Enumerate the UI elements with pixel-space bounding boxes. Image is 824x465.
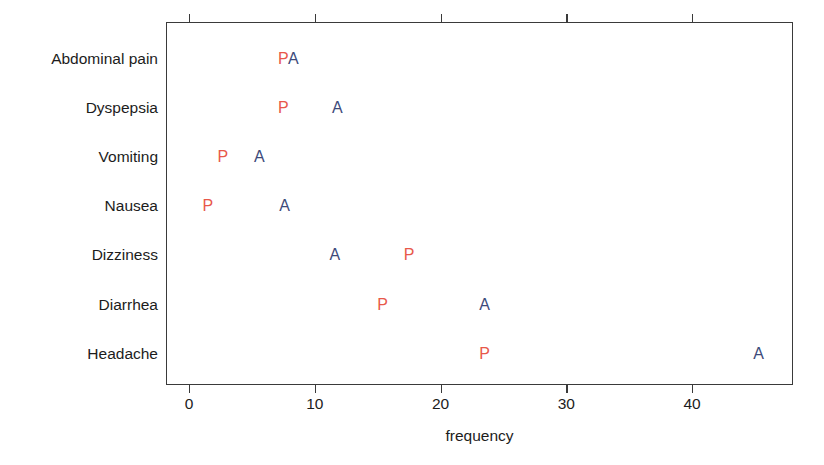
- data-point-p: P: [404, 247, 415, 263]
- plot-frame: [166, 22, 793, 385]
- data-point-a: A: [254, 149, 265, 165]
- data-point-a: A: [330, 247, 341, 263]
- x-tick-label: 20: [432, 396, 449, 412]
- dotplot-figure: Abdominal painDyspepsiaVomitingNauseaDiz…: [0, 0, 824, 465]
- y-axis-category-labels: Abdominal painDyspepsiaVomitingNauseaDiz…: [0, 0, 158, 465]
- x-tick-mark-bottom: [189, 385, 190, 393]
- data-point-a: A: [753, 346, 764, 362]
- data-point-a: A: [479, 297, 490, 313]
- x-tick-mark-bottom: [315, 385, 316, 393]
- data-point-p: P: [203, 198, 214, 214]
- y-axis-label: Vomiting: [0, 149, 166, 165]
- y-axis-label: Dizziness: [0, 247, 166, 263]
- x-tick-mark-bottom: [441, 385, 442, 393]
- x-tick-label: 0: [185, 396, 194, 412]
- x-tick-label: 40: [683, 396, 700, 412]
- x-tick-mark-bottom: [692, 385, 693, 393]
- data-point-a: A: [279, 198, 290, 214]
- data-point-p: P: [218, 149, 229, 165]
- data-point-a: A: [288, 51, 299, 67]
- x-tick-label: 10: [306, 396, 323, 412]
- y-axis-label: Abdominal pain: [0, 51, 166, 67]
- x-tick-mark-bottom: [566, 385, 567, 393]
- y-axis-label: Diarrhea: [0, 297, 166, 313]
- x-tick-mark-top: [566, 14, 567, 22]
- x-tick-mark-top: [692, 14, 693, 22]
- y-axis-label: Dyspepsia: [0, 100, 166, 116]
- y-axis-label: Headache: [0, 346, 166, 362]
- x-tick-mark-top: [315, 14, 316, 22]
- data-point-p: P: [377, 297, 388, 313]
- data-point-p: P: [479, 346, 490, 362]
- data-point-p: P: [278, 100, 289, 116]
- data-point-a: A: [332, 100, 343, 116]
- y-axis-label: Nausea: [0, 198, 166, 214]
- x-tick-label: 30: [558, 396, 575, 412]
- x-axis-title: frequency: [166, 428, 793, 444]
- x-tick-mark-top: [441, 14, 442, 22]
- x-tick-mark-top: [189, 14, 190, 22]
